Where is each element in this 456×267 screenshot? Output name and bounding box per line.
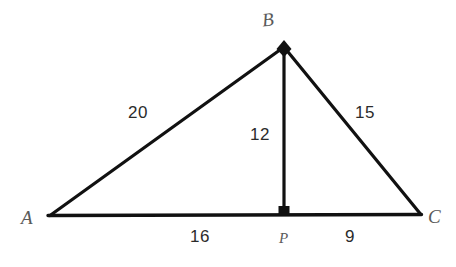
- side-length-label-ab: 20: [128, 104, 148, 121]
- segment-bc: [284, 47, 421, 214]
- segment-ac-base: [48, 215, 422, 216]
- vertex-label-p: P: [279, 231, 288, 246]
- base-length-label-ap: 16: [190, 228, 210, 245]
- side-length-label-bc: 15: [355, 104, 375, 121]
- right-angle-marker: [279, 206, 290, 216]
- vertex-label-a: A: [21, 208, 33, 227]
- triangle-drawing: [0, 0, 456, 267]
- vertex-label-c: C: [428, 207, 441, 226]
- altitude-length-label-bp: 12: [250, 126, 270, 143]
- geometry-figure: 20 15 12 16 9 A B C P: [0, 0, 456, 267]
- base-length-label-pc: 9: [345, 228, 355, 245]
- vertex-label-b: B: [261, 9, 275, 29]
- segment-ab: [50, 47, 284, 216]
